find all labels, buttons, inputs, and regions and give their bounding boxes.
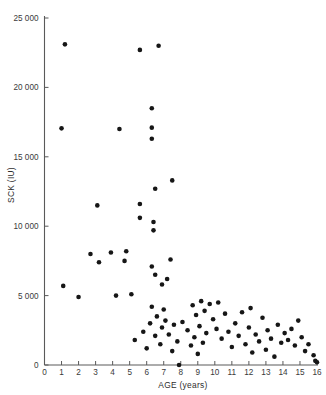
data-point	[202, 309, 207, 314]
y-tick-label: 20 000	[13, 83, 38, 92]
data-point	[226, 329, 231, 334]
data-point	[192, 335, 197, 340]
data-point	[141, 329, 146, 334]
plot-canvas: 05 00010 00015 00020 00025 000 012345678…	[0, 0, 326, 395]
data-point	[132, 338, 137, 343]
data-point	[265, 328, 270, 333]
sck-axis: 05 00010 00015 00020 00025 000	[13, 14, 48, 370]
data-point	[156, 43, 161, 48]
data-point	[151, 220, 156, 225]
x-tick-label: 6	[144, 368, 149, 377]
data-point	[160, 282, 165, 287]
data-point	[199, 299, 204, 304]
y-axis-label: SCK (IU)	[6, 167, 16, 203]
data-point	[124, 249, 129, 254]
data-point	[59, 126, 64, 131]
data-point	[253, 332, 258, 337]
data-point	[194, 313, 199, 318]
x-tick-label: 3	[93, 368, 98, 377]
x-tick-label: 11	[228, 368, 237, 377]
x-tick-label: 2	[76, 368, 81, 377]
data-point	[151, 228, 156, 233]
data-point	[138, 202, 143, 207]
data-point	[175, 339, 180, 344]
data-point	[250, 350, 255, 355]
data-point	[161, 307, 166, 312]
data-point	[172, 322, 177, 327]
data-point	[282, 331, 287, 336]
data-point	[247, 325, 252, 330]
data-point	[63, 42, 68, 47]
data-point	[223, 311, 228, 316]
x-tick-label: 15	[295, 368, 305, 377]
data-point	[150, 136, 155, 141]
data-point	[168, 257, 173, 262]
x-tick-label: 4	[110, 368, 115, 377]
data-point	[289, 327, 294, 332]
data-point	[109, 250, 114, 255]
y-tick-label: 10 000	[13, 222, 38, 231]
data-point	[144, 346, 149, 351]
data-point	[155, 314, 160, 319]
data-point	[129, 292, 134, 297]
x-tick-label: 0	[42, 368, 47, 377]
data-point	[264, 347, 269, 352]
data-point	[160, 325, 165, 330]
scatter-plot-figure: 05 00010 00015 00020 00025 000 012345678…	[0, 0, 326, 395]
y-tick-label: 5 000	[18, 292, 39, 301]
x-tick-label: 8	[178, 368, 183, 377]
data-point	[197, 324, 202, 329]
x-tick-label: 7	[161, 368, 166, 377]
data-point	[306, 342, 311, 347]
data-point	[243, 342, 248, 347]
data-point	[122, 259, 127, 264]
data-point	[185, 328, 190, 333]
x-tick-label: 9	[196, 368, 201, 377]
data-point	[158, 342, 163, 347]
data-point	[114, 293, 119, 298]
data-point	[167, 332, 172, 337]
data-point	[150, 264, 155, 269]
x-tick-label: 14	[278, 368, 288, 377]
data-point	[76, 295, 81, 300]
data-point	[248, 306, 253, 311]
data-point	[240, 310, 245, 315]
data-point	[236, 334, 241, 339]
data-points-layer	[59, 42, 319, 367]
data-point	[150, 125, 155, 130]
data-point	[195, 352, 200, 357]
data-point	[61, 284, 66, 289]
data-point	[299, 335, 304, 340]
data-point	[153, 334, 158, 339]
data-point	[315, 360, 320, 365]
x-tick-label: 12	[244, 368, 254, 377]
data-point	[296, 318, 301, 323]
data-point	[165, 277, 170, 282]
data-point	[257, 339, 262, 344]
y-tick-label: 0	[34, 361, 39, 370]
data-point	[269, 336, 274, 341]
data-point	[138, 216, 143, 221]
data-point	[286, 338, 291, 343]
age-axis: 012345678910111213141516	[42, 361, 322, 377]
data-point	[233, 321, 238, 326]
x-tick-label: 1	[59, 368, 64, 377]
x-tick-label: 10	[210, 368, 220, 377]
data-point	[230, 345, 235, 350]
data-point	[95, 203, 100, 208]
data-point	[311, 353, 316, 358]
data-point	[153, 272, 158, 277]
data-point	[150, 106, 155, 111]
data-point	[216, 300, 221, 305]
data-point	[117, 127, 122, 132]
data-point	[272, 354, 277, 359]
x-tick-label: 16	[312, 368, 322, 377]
y-tick-label: 25 000	[13, 14, 38, 23]
data-point	[148, 321, 153, 326]
data-point	[207, 302, 212, 307]
data-point	[170, 349, 175, 354]
data-point	[303, 349, 308, 354]
data-point	[150, 304, 155, 309]
x-tick-label: 5	[127, 368, 132, 377]
data-point	[204, 331, 209, 336]
